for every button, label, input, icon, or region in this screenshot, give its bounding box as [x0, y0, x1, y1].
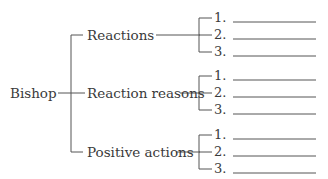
branch-label-positive-actions: Positive actions [87, 144, 194, 160]
item-number: 1. [214, 10, 226, 26]
item-number: 1. [214, 127, 226, 143]
item-number: 3. [214, 161, 226, 177]
item-number: 1. [214, 68, 226, 84]
item-number: 2. [214, 27, 226, 43]
root-label: Bishop [10, 85, 57, 101]
branch-label-reaction-reasons: Reaction reasons [87, 85, 205, 101]
item-number: 2. [214, 85, 226, 101]
item-number: 2. [214, 144, 226, 160]
item-number: 3. [214, 44, 226, 60]
branch-label-reactions: Reactions [87, 27, 154, 43]
item-number: 3. [214, 102, 226, 118]
